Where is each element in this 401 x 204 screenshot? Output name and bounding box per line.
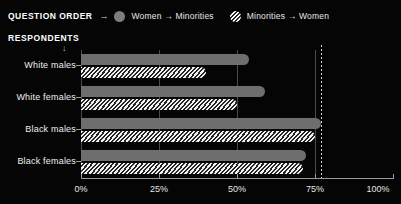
x-tick-0: [81, 174, 82, 179]
reference-line: [321, 45, 322, 178]
gridline-75: [315, 50, 316, 178]
x-tick-50: [237, 174, 238, 179]
bar-white-males-women-minorities[interactable]: [81, 54, 249, 65]
x-axis-tick-label-0: 0%: [74, 184, 87, 194]
x-axis-tick-label-75: 75%: [306, 184, 324, 194]
legend-title: QUESTION ORDER: [8, 11, 92, 21]
legend-item-minorities-women[interactable]: Minorities → Women: [230, 11, 329, 22]
y-axis-label-white-males: White males: [24, 60, 76, 70]
y-tick-0: [76, 65, 81, 66]
bar-black-females-women-minorities[interactable]: [81, 150, 306, 161]
respondents-axis-title: RESPONDENTS: [8, 33, 79, 43]
x-tick-75: [315, 174, 316, 179]
y-axis-label-black-females: Black females: [17, 156, 76, 166]
bar-white-females-minorities-women[interactable]: [81, 99, 237, 110]
x-tick-100: [393, 174, 394, 179]
solid-circle-icon: [114, 11, 125, 22]
bar-black-males-minorities-women[interactable]: [81, 131, 315, 142]
chart-container: QUESTION ORDER → Women → Minorities Mino…: [0, 0, 401, 204]
y-axis-label-white-females: White females: [16, 92, 76, 102]
bar-black-females-minorities-women[interactable]: [81, 163, 303, 174]
y-tick-3: [76, 161, 81, 162]
legend-item-label: Women → Minorities: [131, 11, 213, 21]
y-tick-2: [76, 129, 81, 130]
plot-area: [81, 50, 393, 178]
legend-item-women-minorities[interactable]: Women → Minorities: [114, 11, 213, 22]
y-tick-1: [76, 97, 81, 98]
bar-white-females-women-minorities[interactable]: [81, 86, 265, 97]
x-tick-25: [159, 174, 160, 179]
legend-item-label: Minorities → Women: [247, 11, 329, 21]
x-axis-tick-label-100: 100%: [366, 184, 389, 194]
hatched-circle-icon: [230, 11, 241, 22]
y-axis-label-black-males: Black males: [25, 124, 76, 134]
bar-white-males-minorities-women[interactable]: [81, 67, 206, 78]
bar-black-males-women-minorities[interactable]: [81, 118, 321, 129]
arrow-down-icon: ↓: [62, 44, 67, 53]
x-axis-tick-label-50: 50%: [228, 184, 246, 194]
x-axis-tick-label-25: 25%: [150, 184, 168, 194]
chart-legend: QUESTION ORDER → Women → Minorities Mino…: [8, 8, 345, 24]
arrow-right-icon: →: [99, 11, 108, 21]
